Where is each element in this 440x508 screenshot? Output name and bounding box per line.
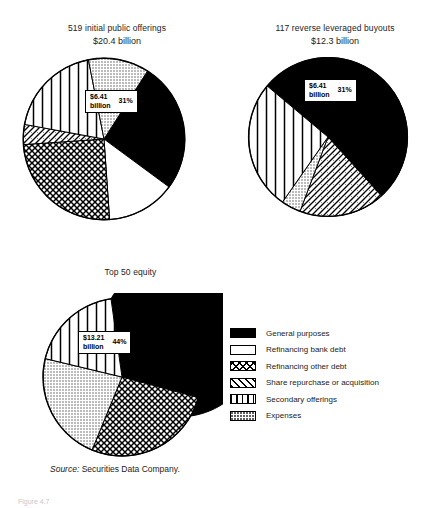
pie-chart-ipo: $6.41 billion 31% [22,57,212,222]
legend-item-general-purposes: General purposes [230,325,379,342]
pie-svg [38,293,223,465]
legend-label: Secondary offerings [266,395,337,404]
callout-unit: billion [90,102,111,111]
chart-panel-top50: Top 50 equity [38,266,223,465]
legend-label: Share repurchase or acquisition [266,378,379,387]
callout-unit: billion [309,91,330,100]
pie-chart-rlbo: $6.41 billion 31% [240,57,430,222]
chart-title: Top 50 equity [38,266,223,279]
pie-callout-rlbo: $6.41 billion 31% [304,79,357,102]
legend-swatch-diagonal-stripes [230,378,256,388]
source-text: Securities Data Company. [82,464,180,474]
callout-amount: $6.41 [309,82,330,91]
legend-item-refinancing-other-debt: Refinancing other debt [230,358,379,375]
chart-legend: General purposes Refinancing bank debt R… [230,325,379,424]
legend-label: General purposes [266,329,330,338]
legend-label: Refinancing other debt [266,362,347,371]
pie-callout-ipo: $6.41 billion 31% [85,90,138,113]
legend-label: Refinancing bank debt [266,345,346,354]
chart-title: 117 reverse leveraged buyouts [240,22,430,35]
legend-swatch-crosshatch [230,361,256,371]
callout-amount: $6.41 [90,93,111,102]
callout-percent: 31% [119,97,133,106]
callout-percent: 31% [338,86,352,95]
callout-percent: 44% [112,338,126,347]
callout-amount: $13.21 [83,334,104,343]
callout-unit: billion [83,343,104,352]
legend-swatch-solid-black [230,328,256,338]
legend-swatch-white [230,345,256,355]
legend-swatch-dotted [230,411,256,421]
chart-subtitle: $12.3 billion [240,35,430,48]
pie-chart-top50: $13.21 billion 44% [38,293,223,465]
legend-item-expenses: Expenses [230,408,379,425]
pie-svg [22,57,212,222]
legend-item-refinancing-bank-debt: Refinancing bank debt [230,342,379,359]
chart-panel-ipo: 519 initial public offerings $20.4 billi… [22,22,212,222]
pie-callout-top50: $13.21 billion 44% [78,331,131,354]
legend-label: Expenses [266,411,301,420]
chart-title: 519 initial public offerings [22,22,212,35]
chart-panel-rlbo: 117 reverse leveraged buyouts $12.3 bill… [240,22,430,222]
source-prefix: Source: [50,464,79,474]
legend-item-secondary-offerings: Secondary offerings [230,391,379,408]
chart-subtitle: $20.4 billion [22,35,212,48]
source-line: Source: Securities Data Company. [50,464,180,474]
figure-footnote: Figure 4.7 [18,498,50,505]
legend-item-share-repurchase: Share repurchase or acquisition [230,375,379,392]
legend-swatch-vertical-stripes [230,394,256,404]
